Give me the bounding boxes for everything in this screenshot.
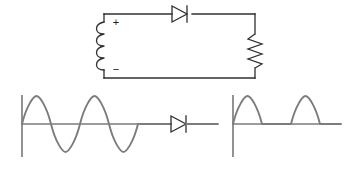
figure-canvas: + − bbox=[0, 0, 347, 169]
figure-background bbox=[0, 0, 347, 169]
polarity-plus-label: + bbox=[113, 16, 119, 28]
polarity-minus-label: − bbox=[113, 63, 119, 75]
rectifier-figure: + − bbox=[0, 0, 347, 169]
